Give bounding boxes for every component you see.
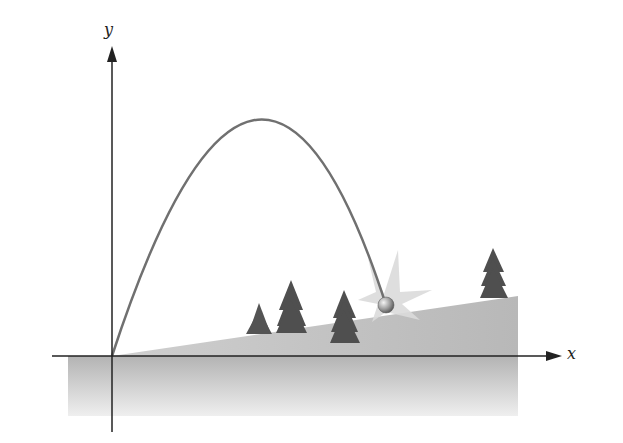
- tree-icon: [246, 303, 272, 334]
- projectile-ball: [378, 297, 394, 313]
- tree-icon: [480, 248, 508, 298]
- projectile-diagram: x y: [0, 0, 623, 443]
- tree-icon: [276, 280, 307, 333]
- inclined-hill: [112, 296, 518, 356]
- ground-block: [68, 356, 518, 416]
- diagram-canvas: [0, 0, 623, 443]
- x-axis-arrow-icon: [546, 351, 562, 361]
- y-axis-arrow-icon: [107, 46, 117, 62]
- tree-icon: [330, 290, 360, 343]
- y-axis-label: y: [104, 20, 113, 39]
- x-axis-label: x: [567, 344, 576, 363]
